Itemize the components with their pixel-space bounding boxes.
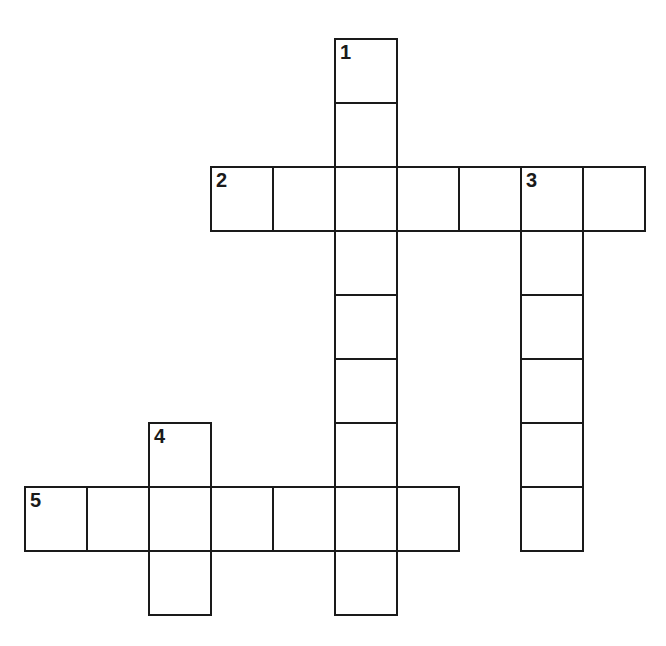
crossword-cell[interactable]: 1 (334, 38, 398, 104)
crossword-cell[interactable] (148, 550, 212, 616)
crossword-cell[interactable] (582, 166, 646, 232)
crossword-grid: 12345 (0, 0, 666, 646)
crossword-cell[interactable] (334, 230, 398, 296)
crossword-cell[interactable] (272, 166, 336, 232)
crossword-cell[interactable]: 2 (210, 166, 274, 232)
crossword-cell[interactable] (334, 294, 398, 360)
clue-number: 2 (216, 170, 227, 190)
crossword-cell[interactable] (396, 166, 460, 232)
crossword-cell[interactable]: 4 (148, 422, 212, 488)
clue-number: 3 (526, 170, 537, 190)
crossword-cell[interactable] (520, 358, 584, 424)
clue-number: 1 (340, 42, 351, 62)
crossword-cell[interactable] (334, 550, 398, 616)
clue-number: 4 (154, 426, 165, 446)
crossword-cell[interactable] (334, 422, 398, 488)
crossword-cell[interactable]: 3 (520, 166, 584, 232)
crossword-cell[interactable] (520, 294, 584, 360)
crossword-cell[interactable] (334, 486, 398, 552)
crossword-cell[interactable] (210, 486, 274, 552)
crossword-cell[interactable] (520, 486, 584, 552)
crossword-cell[interactable] (272, 486, 336, 552)
crossword-cell[interactable] (396, 486, 460, 552)
crossword-cell[interactable] (334, 358, 398, 424)
crossword-cell[interactable] (520, 230, 584, 296)
crossword-cell[interactable] (520, 422, 584, 488)
crossword-cell[interactable]: 5 (24, 486, 88, 552)
crossword-cell[interactable] (458, 166, 522, 232)
crossword-cell[interactable] (86, 486, 150, 552)
crossword-cell[interactable] (334, 166, 398, 232)
clue-number: 5 (30, 490, 41, 510)
crossword-cell[interactable] (148, 486, 212, 552)
crossword-cell[interactable] (334, 102, 398, 168)
